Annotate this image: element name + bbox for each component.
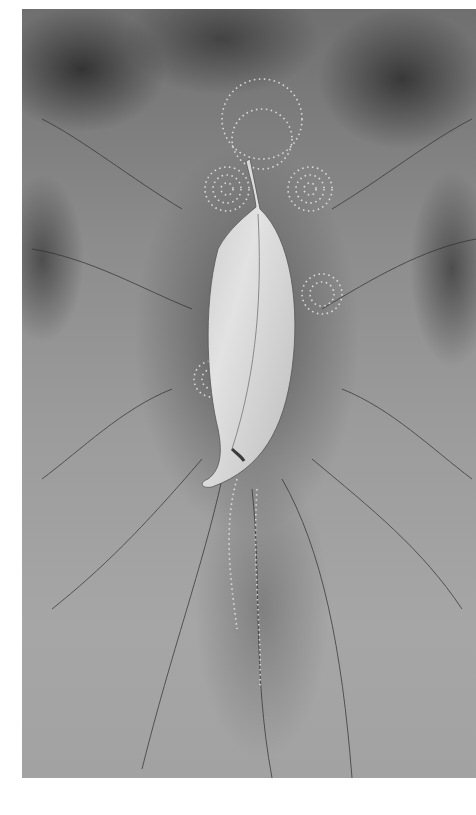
- leaf-artwork: [22, 9, 476, 778]
- painting: [22, 9, 476, 778]
